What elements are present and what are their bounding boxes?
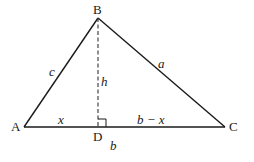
vertex-label-a: A bbox=[11, 119, 21, 134]
segment-label-x: x bbox=[57, 112, 64, 127]
side-ab bbox=[24, 18, 98, 127]
side-bc bbox=[98, 18, 225, 127]
right-angle-marker bbox=[98, 119, 106, 127]
vertex-label-c: C bbox=[229, 119, 238, 134]
side-label-c: c bbox=[49, 64, 55, 79]
vertex-label-d: D bbox=[93, 129, 102, 144]
segment-label-b-minus-x: b − x bbox=[137, 112, 165, 127]
vertex-label-b: B bbox=[93, 2, 102, 17]
altitude-label-h: h bbox=[101, 74, 108, 89]
triangle-diagram: B A C D c a h x b − x b bbox=[0, 0, 254, 162]
side-label-a: a bbox=[158, 56, 165, 71]
base-label-b: b bbox=[110, 138, 117, 153]
